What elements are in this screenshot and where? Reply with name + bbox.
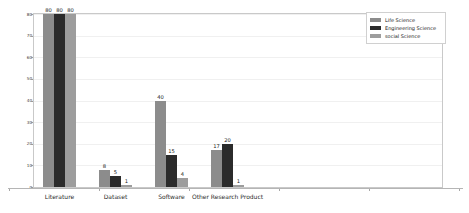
bar-value-label: 1 bbox=[125, 178, 128, 184]
y-tick-mark bbox=[31, 36, 33, 37]
bar bbox=[177, 178, 188, 187]
y-tick-mark bbox=[31, 14, 33, 15]
bar-value-label: 80 bbox=[67, 7, 74, 13]
bar-value-label: 5 bbox=[114, 169, 117, 175]
bar bbox=[155, 101, 166, 188]
bar-value-label: 80 bbox=[56, 7, 63, 13]
x-tick-label: Software bbox=[158, 193, 184, 201]
bar-value-label: 15 bbox=[168, 148, 175, 154]
gridline bbox=[34, 57, 442, 58]
bar-value-label: 17 bbox=[213, 143, 220, 149]
legend-swatch-icon bbox=[370, 34, 381, 38]
bar-value-label: 80 bbox=[45, 7, 52, 13]
x-minor-tick bbox=[9, 189, 10, 191]
x-tick-label: Literature bbox=[45, 193, 74, 201]
bar bbox=[99, 170, 110, 187]
y-tick-mark bbox=[31, 165, 33, 166]
x-minor-tick bbox=[459, 189, 460, 191]
x-tick-label: Dataset bbox=[104, 193, 128, 201]
x-tick-label: Other Research Product bbox=[192, 193, 263, 201]
y-tick-mark bbox=[31, 79, 33, 80]
legend-swatch-icon bbox=[370, 18, 381, 22]
legend-item[interactable]: Engineering Science bbox=[370, 24, 442, 32]
bar-value-label: 8 bbox=[103, 163, 106, 169]
bar bbox=[222, 144, 233, 187]
bar-value-label: 4 bbox=[181, 171, 184, 177]
bar bbox=[110, 176, 121, 187]
y-tick-mark bbox=[31, 57, 33, 58]
legend: Life ScienceEngineering Sciencesocial Sc… bbox=[366, 12, 446, 44]
bar-value-label: 40 bbox=[157, 94, 164, 100]
legend-item-label: Life Science bbox=[385, 17, 415, 23]
legend-item[interactable]: social Science bbox=[370, 32, 442, 40]
x-minor-tick bbox=[369, 189, 370, 191]
bar bbox=[166, 155, 177, 187]
bar bbox=[43, 14, 54, 187]
bar-value-label: 1 bbox=[237, 178, 240, 184]
bar-chart-figure: 8080808514015417201 01020304050607080 Li… bbox=[0, 0, 469, 213]
y-tick-mark bbox=[31, 101, 33, 102]
x-minor-tick bbox=[99, 189, 100, 191]
gridline bbox=[34, 101, 442, 102]
bar bbox=[54, 14, 65, 187]
x-axis-line bbox=[8, 188, 463, 189]
gridline bbox=[34, 79, 442, 80]
x-minor-tick bbox=[189, 189, 190, 191]
y-tick-mark bbox=[31, 144, 33, 145]
legend-item-label: social Science bbox=[385, 33, 420, 39]
legend-swatch-icon bbox=[370, 26, 381, 30]
gridline bbox=[34, 122, 442, 123]
legend-item-label: Engineering Science bbox=[385, 25, 436, 31]
gridline bbox=[34, 165, 442, 166]
gridline bbox=[34, 144, 442, 145]
bar bbox=[121, 185, 132, 187]
y-tick-mark bbox=[31, 122, 33, 123]
bar-value-label: 20 bbox=[224, 137, 231, 143]
x-minor-tick bbox=[279, 189, 280, 191]
legend-item[interactable]: Life Science bbox=[370, 16, 442, 24]
bar bbox=[65, 14, 76, 187]
bar bbox=[233, 185, 244, 187]
bar bbox=[211, 150, 222, 187]
